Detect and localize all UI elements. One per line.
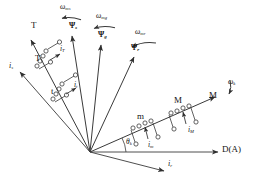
- omega-ms-arc: [62, 17, 81, 20]
- label-i-t: it: [74, 81, 77, 90]
- label-t-lower: t: [51, 87, 54, 96]
- label-i-r: ir: [168, 160, 172, 169]
- label-M-coil: M: [174, 96, 182, 105]
- label-omega-mg: ωmg: [96, 12, 107, 21]
- label-i-s: is: [9, 62, 13, 71]
- omega-mg-arc: [94, 26, 115, 28]
- label-T-upper: T: [31, 21, 37, 30]
- label-psi-s: Ψs: [69, 22, 77, 31]
- label-M-tip: M: [209, 91, 217, 100]
- psi-g-vector: [90, 45, 101, 152]
- label-theta-k: θk: [126, 138, 132, 147]
- label-psi-g: Ψg: [98, 31, 107, 40]
- i-r-vector: [90, 152, 164, 171]
- label-psi-r: Ψr: [131, 44, 139, 53]
- figure-canvas: ωms Ψs ωmg Ψg ωmr Ψr ωk T T iT t it is i…: [0, 0, 255, 183]
- label-omega-k: ωk: [228, 78, 235, 87]
- label-i-M: iM: [188, 126, 194, 135]
- label-T-lower: T: [35, 54, 41, 63]
- label-i-T: iT: [60, 45, 65, 54]
- label-i-m: im: [148, 141, 153, 150]
- label-omega-mr: ωmr: [135, 28, 145, 37]
- label-m-coil: m: [137, 112, 144, 121]
- label-omega-ms: ωms: [60, 3, 70, 12]
- label-D-A: D(A): [222, 145, 241, 154]
